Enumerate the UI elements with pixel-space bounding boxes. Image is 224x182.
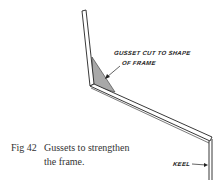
keel-arrow xyxy=(192,164,206,165)
figure: GUSSET CUT TO SHAPE OF FRAME KEEL Fig 42… xyxy=(0,0,224,182)
gusset-label-line2: OF FRAME xyxy=(122,60,157,66)
keel-label: KEEL xyxy=(173,161,191,167)
gusset-label-line1: GUSSET CUT TO SHAPE xyxy=(114,50,191,56)
figure-number: Fig 42 xyxy=(11,142,37,153)
caption-line1: Gussets to strengthen xyxy=(44,142,130,153)
frame-floor xyxy=(90,84,212,141)
gusset-arrow xyxy=(107,66,120,77)
frame-drawing xyxy=(0,0,224,182)
caption-line2: the frame. xyxy=(44,156,85,167)
frame-upright xyxy=(82,10,94,86)
